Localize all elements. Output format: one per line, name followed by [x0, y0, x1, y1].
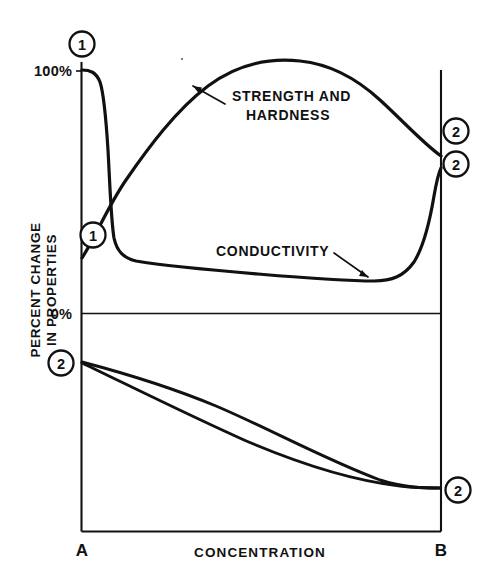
x-axis-label: CONCENTRATION [194, 545, 326, 560]
marker-2-conductivity-end: 2 [444, 152, 469, 177]
x-tick-label-a: A [76, 541, 88, 560]
figure-container: 1 1 2 2 2 2 100% 0% [0, 0, 501, 581]
series-label-strength-line2: HARDNESS [246, 107, 330, 123]
marker-2-lower-left: 2 [49, 351, 74, 376]
marker-1-conductivity-drop: 1 [81, 223, 106, 248]
curve-lower-lens-upper [82, 362, 440, 488]
print-speck [181, 58, 183, 60]
y-axis-label-line1: PERCENT CHANGE [28, 222, 43, 357]
marker-2-lower-left-label: 2 [57, 356, 65, 372]
marker-2-lower-right-label: 2 [454, 483, 462, 499]
phase-property-diagram: 1 1 2 2 2 2 100% 0% [0, 0, 501, 581]
x-tick-label-b: B [435, 541, 447, 560]
y-axis-label: PERCENT CHANGE IN PROPERTIES [28, 222, 59, 357]
y-axis-label-line2: IN PROPERTIES [44, 234, 59, 346]
y-tick-label-100: 100% [34, 63, 72, 79]
marker-1-top-left: 1 [70, 32, 95, 57]
series-label-strength-line1: STRENGTH AND [232, 88, 351, 104]
marker-2-strength-end: 2 [444, 119, 469, 144]
marker-1-top-left-label: 1 [78, 37, 86, 53]
marker-1-conductivity-drop-label: 1 [89, 228, 97, 244]
conductivity-leader-arrow [334, 253, 368, 277]
marker-2-lower-right: 2 [446, 478, 471, 503]
marker-2-conductivity-end-label: 2 [452, 157, 460, 173]
marker-2-strength-end-label: 2 [452, 124, 460, 140]
series-label-conductivity: CONDUCTIVITY [216, 243, 329, 259]
